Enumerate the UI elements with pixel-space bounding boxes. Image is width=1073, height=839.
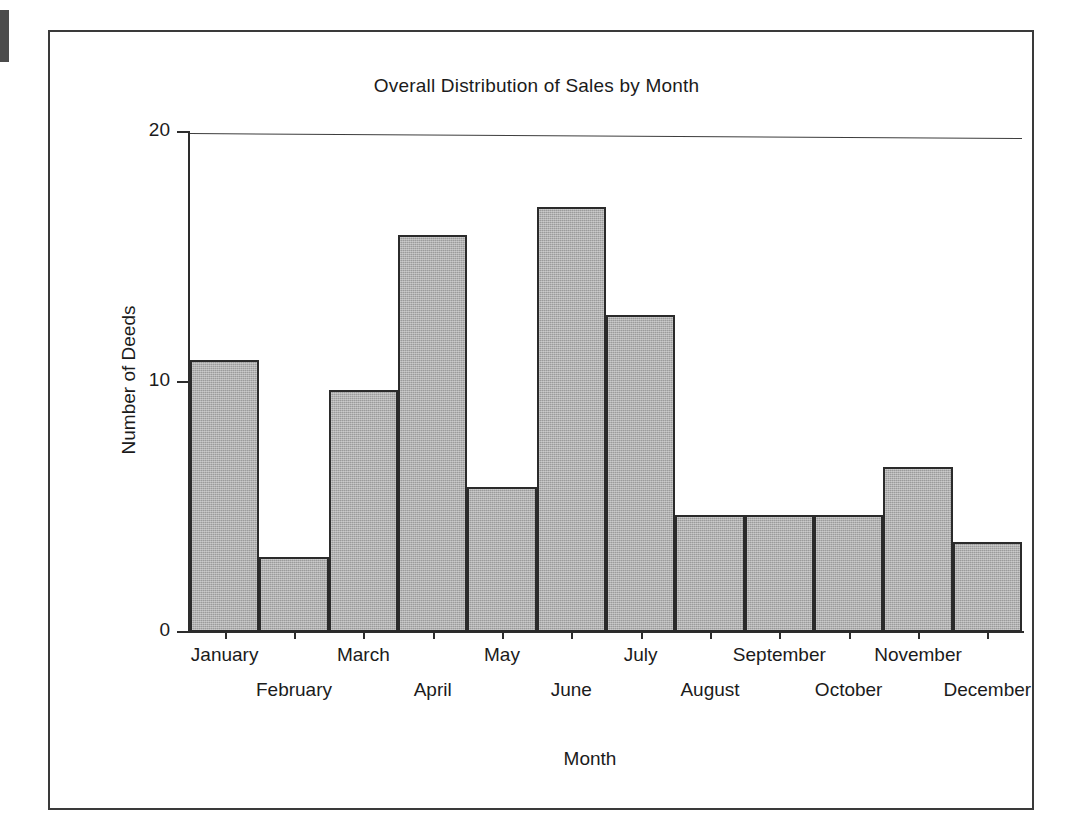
x-tick-mark-october <box>849 633 851 639</box>
y-tick-mark-20 <box>177 131 190 133</box>
x-label-november: November <box>828 644 1008 666</box>
bar-july <box>606 315 675 633</box>
y-tick-label-20: 20 <box>110 119 170 141</box>
bar-chart: Overall Distribution of Sales by Month N… <box>0 0 1073 839</box>
bar-april <box>398 235 467 633</box>
bar-june <box>537 207 606 632</box>
y-tick-label-10: 10 <box>110 369 170 391</box>
x-tick-mark-july <box>641 633 643 639</box>
bar-december <box>953 542 1022 632</box>
x-tick-mark-august <box>710 633 712 639</box>
bar-january <box>190 360 259 633</box>
x-label-december: December <box>897 679 1073 701</box>
y-tick-mark-0 <box>177 631 190 633</box>
x-tick-mark-february <box>294 633 296 639</box>
bar-march <box>329 390 398 633</box>
bar-october <box>814 515 883 633</box>
x-tick-mark-september <box>779 633 781 639</box>
x-tick-mark-june <box>571 633 573 639</box>
x-tick-mark-december <box>987 633 989 639</box>
x-axis-title: Month <box>190 748 990 770</box>
bar-november <box>883 467 952 632</box>
y-tick-label-0: 0 <box>110 619 170 641</box>
bar-august <box>675 515 744 633</box>
x-tick-mark-april <box>433 633 435 639</box>
plot-top-rule <box>190 133 1022 139</box>
x-tick-mark-january <box>225 633 227 639</box>
x-tick-mark-november <box>918 633 920 639</box>
y-tick-mark-10 <box>177 381 190 383</box>
bar-may <box>467 487 536 632</box>
bar-september <box>745 515 814 633</box>
x-tick-mark-may <box>502 633 504 639</box>
x-tick-mark-march <box>363 633 365 639</box>
chart-title: Overall Distribution of Sales by Month <box>0 75 1073 97</box>
bar-february <box>259 557 328 632</box>
